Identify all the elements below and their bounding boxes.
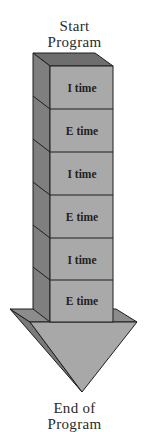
block-label: I time bbox=[67, 82, 96, 94]
block-label: E time bbox=[66, 295, 98, 307]
block-label: I time bbox=[67, 254, 96, 266]
arrow-front-face bbox=[30, 322, 137, 392]
stack-side-face bbox=[33, 53, 50, 322]
block-label: I time bbox=[67, 168, 96, 180]
end-label-line2: Program bbox=[0, 416, 149, 432]
block-stack: I time E time I time E time I time E tim… bbox=[33, 53, 113, 322]
block-label: E time bbox=[66, 211, 98, 223]
stack-front-face bbox=[50, 66, 113, 322]
end-program-label: End of Program bbox=[0, 400, 149, 432]
block-6: E time bbox=[66, 295, 98, 307]
block-label: E time bbox=[66, 125, 98, 137]
end-label-line1: End of bbox=[0, 400, 149, 416]
